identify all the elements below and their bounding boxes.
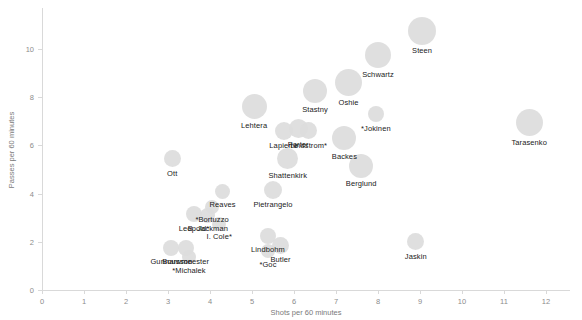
x-tick-mark <box>42 290 43 294</box>
bubble-point <box>300 122 317 139</box>
point-label: Tarasenko <box>511 138 547 147</box>
bubble-point <box>303 79 327 103</box>
y-tick-mark <box>38 97 42 98</box>
x-tick-label: 2 <box>124 297 128 306</box>
x-axis-title: Shots per 60 minutes <box>271 308 342 317</box>
x-tick-label: 10 <box>458 297 466 306</box>
x-tick-label: 3 <box>166 297 170 306</box>
bubble-point <box>163 240 179 256</box>
x-tick-mark <box>546 290 547 294</box>
y-tick-mark <box>38 290 42 291</box>
bubble-point <box>332 126 356 150</box>
point-label: Berglund <box>346 179 377 188</box>
scatter-chart: 0123456789101112 0246810 SteenSchwartzOs… <box>0 0 582 320</box>
x-tick-mark <box>504 290 505 294</box>
x-tick-label: 1 <box>82 297 86 306</box>
y-tick-label: 0 <box>30 286 34 295</box>
y-tick-label: 4 <box>30 189 34 198</box>
point-label: Pietrangelo <box>253 200 292 209</box>
y-tick-label: 6 <box>30 141 34 150</box>
x-tick-label: 0 <box>40 297 44 306</box>
y-tick-mark <box>38 49 42 50</box>
point-label: Stastny <box>302 105 328 114</box>
x-tick-mark <box>126 290 127 294</box>
y-tick-mark <box>38 242 42 243</box>
x-tick-label: 6 <box>292 297 296 306</box>
x-tick-mark <box>378 290 379 294</box>
point-label: I. Cole* <box>207 232 232 241</box>
point-label: Shattenkirk <box>268 171 307 180</box>
x-tick-label: 8 <box>376 297 380 306</box>
x-tick-mark <box>462 290 463 294</box>
x-tick-label: 11 <box>500 297 508 306</box>
x-tick-mark <box>294 290 295 294</box>
point-label: *Jokinen <box>361 124 391 133</box>
y-tick-label: 10 <box>26 45 34 54</box>
bubble-point <box>407 233 424 250</box>
point-label: Oshie <box>339 98 359 107</box>
point-label: Reaves <box>210 200 236 209</box>
x-tick-mark <box>168 290 169 294</box>
bubble-point <box>264 181 282 199</box>
y-tick-mark <box>38 194 42 195</box>
plot-area: 0123456789101112 0246810 SteenSchwartzOs… <box>0 0 582 320</box>
bubble-point <box>277 148 298 169</box>
bubble-point <box>242 94 267 119</box>
bubble-point <box>215 184 230 199</box>
bubble-point <box>516 109 543 136</box>
y-axis-title: Passes per 60 minutes <box>7 112 16 188</box>
bubble-point <box>408 17 436 45</box>
x-tick-mark <box>252 290 253 294</box>
x-tick-mark <box>84 290 85 294</box>
point-label: Backes <box>332 152 357 161</box>
bubble-point <box>275 122 293 140</box>
x-tick-mark <box>336 290 337 294</box>
point-label: Bouwmeester <box>162 257 209 266</box>
x-tick-label: 4 <box>208 297 212 306</box>
point-label: Lindbohm <box>251 245 285 254</box>
bubble-point <box>335 69 362 96</box>
point-label: Jaskin <box>405 252 427 261</box>
point-label: Steen <box>412 46 432 55</box>
y-tick-label: 8 <box>30 93 34 102</box>
x-axis-line <box>42 290 570 291</box>
y-tick-mark <box>38 145 42 146</box>
x-tick-label: 5 <box>250 297 254 306</box>
bubble-point <box>368 106 384 122</box>
x-tick-mark <box>210 290 211 294</box>
x-tick-label: 12 <box>542 297 550 306</box>
point-label: Ott <box>167 169 177 178</box>
point-label: Lindstrom* <box>290 141 327 150</box>
bubble-point <box>164 150 181 167</box>
point-label: *Michalek <box>172 266 205 275</box>
x-tick-mark <box>420 290 421 294</box>
y-axis-line <box>42 8 43 290</box>
x-tick-label: 7 <box>334 297 338 306</box>
point-label: *Goc <box>259 260 276 269</box>
point-label: Schwartz <box>362 70 394 79</box>
point-label: Lehtera <box>241 121 267 130</box>
bubble-point <box>365 42 391 68</box>
y-tick-label: 2 <box>30 237 34 246</box>
x-tick-label: 9 <box>418 297 422 306</box>
